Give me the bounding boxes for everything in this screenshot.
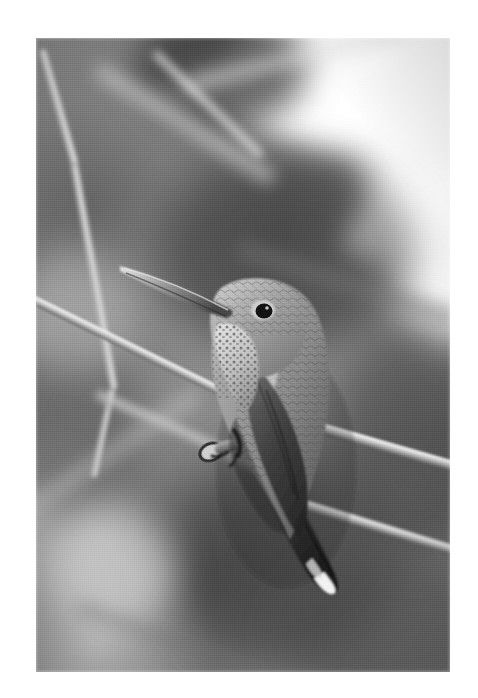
photo-edge-fade xyxy=(36,38,450,672)
page-root xyxy=(0,0,478,698)
photograph xyxy=(36,38,450,672)
